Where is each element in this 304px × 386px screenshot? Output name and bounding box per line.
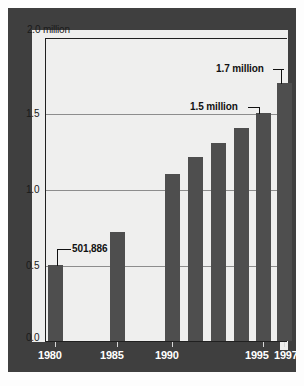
annotation-1-7-million-leader-horizontal <box>273 69 284 70</box>
gridline-1-5 <box>46 114 287 115</box>
plot-area <box>45 38 287 342</box>
x-tick-1997 <box>284 342 285 347</box>
y-tick-label-1-5: 1.5 <box>26 109 39 119</box>
x-tick-1995 <box>263 342 264 347</box>
x-axis-label-1997: 1997 <box>274 349 298 361</box>
x-axis-label-1980: 1980 <box>38 349 62 361</box>
annotation-1-7-million-label: 1.7 million <box>216 63 264 74</box>
bar-1995 <box>256 113 271 341</box>
bar-1990 <box>165 174 180 341</box>
annotation-1-5-million-leader-vertical <box>259 107 260 114</box>
annotation-501886-leader-horizontal <box>57 249 71 250</box>
bar-1997 <box>277 83 292 341</box>
chart-figure: 2.0 million 1.5 1.0 0.5 0.0 501,886 1.5 … <box>0 0 304 386</box>
bar-1985 <box>110 232 125 341</box>
annotation-1-7-million-leader-vertical <box>281 69 282 84</box>
bar-1992 <box>211 143 226 341</box>
x-axis-strip: 1980 1985 1990 1995 1997 <box>24 342 280 372</box>
bar-1993 <box>234 128 249 341</box>
y-tick-label-1-0: 1.0 <box>26 185 39 195</box>
y-axis-unit-label: 2.0 million <box>27 24 70 35</box>
x-axis-label-1995: 1995 <box>245 349 269 361</box>
axis-top <box>45 38 287 39</box>
x-tick-1990 <box>172 342 173 347</box>
x-axis-label-1985: 1985 <box>100 349 124 361</box>
axis-left <box>45 38 46 342</box>
x-tick-1980 <box>55 342 56 347</box>
bar-1980 <box>48 265 63 341</box>
bar-1991 <box>188 157 203 341</box>
x-axis-label-1990: 1990 <box>155 349 179 361</box>
annotation-501886-leader-vertical <box>57 249 58 266</box>
annotation-501886-label: 501,886 <box>72 243 107 254</box>
annotation-1-5-million-label: 1.5 million <box>190 101 238 112</box>
y-tick-label-0-5: 0.5 <box>26 261 39 271</box>
x-tick-1985 <box>117 342 118 347</box>
